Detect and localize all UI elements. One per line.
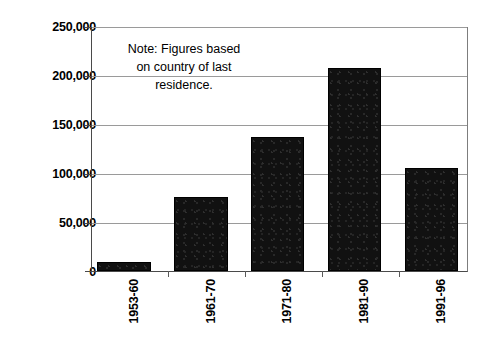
bar-1953-60 [97, 262, 151, 271]
x-tick-mark [245, 271, 246, 277]
y-tick-mark-0 [85, 271, 92, 272]
y-axis-tick-label: 50,000 [10, 217, 96, 230]
gridline-150000 [92, 125, 467, 126]
gridline-250000 [92, 27, 467, 28]
x-axis-label-1991-96: 1991-96 [435, 279, 448, 323]
chart-annotation-note: Note: Figures based on country of last r… [104, 40, 264, 94]
x-tick-mark [322, 271, 323, 277]
y-axis-tick-label: 0 [10, 266, 96, 279]
x-axis-label-1953-60: 1953-60 [128, 279, 141, 323]
x-tick-mark [168, 271, 169, 277]
note-line-1: Note: Figures based [104, 40, 264, 58]
bar-chart: 250,000 200,000 150,000 100,000 50,000 0… [0, 0, 495, 358]
y-tick-mark-200000 [85, 76, 92, 77]
x-tick-mark [399, 271, 400, 277]
y-tick-mark-250000 [85, 27, 92, 28]
x-axis-label-1961-70: 1961-70 [205, 279, 218, 323]
bar-1971-80 [251, 137, 304, 271]
x-axis-label-1981-90: 1981-90 [358, 279, 371, 323]
bar-1981-90 [328, 68, 381, 271]
y-tick-mark-150000 [85, 125, 92, 126]
y-tick-mark-50000 [85, 223, 92, 224]
note-line-3: residence. [104, 76, 264, 94]
bar-1961-70 [174, 197, 228, 271]
y-axis-tick-label: 250,000 [10, 21, 96, 34]
y-axis-tick-label: 200,000 [10, 70, 96, 83]
y-axis-tick-label: 150,000 [10, 119, 96, 132]
y-axis-tick-label: 100,000 [10, 168, 96, 181]
y-tick-mark-100000 [85, 174, 92, 175]
x-axis-label-1971-80: 1971-80 [281, 279, 294, 323]
bar-1991-96 [405, 168, 458, 271]
note-line-2: on country of last [104, 58, 264, 76]
